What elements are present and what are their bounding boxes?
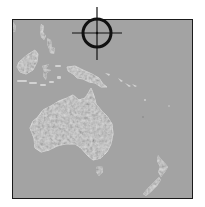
new-guinea [67, 66, 107, 87]
map-frame[interactable] [12, 19, 193, 199]
solomon-islands [105, 73, 137, 87]
map-widget [0, 0, 205, 207]
oceania-relief-map [13, 20, 192, 198]
sulawesi [42, 64, 51, 80]
borneo [17, 50, 38, 74]
pacific-islands [142, 99, 170, 118]
new-zealand-north-island [157, 155, 168, 177]
new-zealand-south-island [143, 177, 161, 196]
tasmania [96, 166, 103, 176]
australia [30, 88, 113, 160]
philippines-islands [13, 22, 55, 54]
